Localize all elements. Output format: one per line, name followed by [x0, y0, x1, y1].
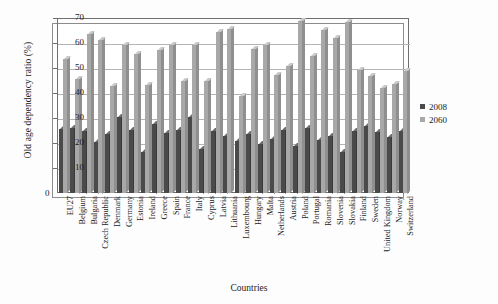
bar-face	[145, 85, 149, 193]
bar-face	[216, 32, 220, 194]
bar-face	[87, 34, 91, 193]
bar-face	[321, 30, 325, 193]
bar-2060	[134, 54, 138, 193]
bar-2060	[216, 32, 220, 194]
bar-2060	[380, 88, 384, 193]
bar-face	[63, 59, 67, 193]
x-tick-label: Italy	[195, 196, 204, 211]
bar-group	[198, 18, 210, 193]
bar-group	[127, 18, 139, 193]
bar-2060	[345, 22, 349, 193]
bar-2008	[399, 131, 403, 194]
bar-face	[122, 45, 126, 193]
bar-2008	[328, 136, 332, 194]
bar-2060	[98, 40, 102, 194]
legend-swatch-icon	[420, 117, 425, 122]
y-tick-label: 20	[44, 137, 84, 147]
bar-2008	[94, 142, 98, 194]
x-tick-label: Spain	[172, 196, 181, 215]
bar-face	[246, 134, 250, 193]
bar-2060	[286, 66, 290, 193]
bar-2008	[352, 131, 356, 193]
bar-2008	[141, 152, 145, 193]
bar-group	[374, 18, 386, 193]
bar-2008	[105, 134, 109, 193]
y-tick-mark	[53, 43, 57, 44]
bar-2060	[368, 76, 372, 193]
x-tick-label: France	[183, 196, 192, 219]
bar-face	[129, 130, 133, 193]
bar-2060	[298, 21, 302, 194]
bar-2008	[164, 133, 168, 193]
bar-2060	[87, 34, 91, 193]
x-tick-label: Ireland	[148, 196, 157, 220]
bar-2060	[63, 59, 67, 193]
bar-face	[375, 132, 379, 193]
bar-group	[174, 18, 186, 193]
y-tick-label: 30	[44, 112, 84, 122]
y-axis-title: Old age dependency ratio (%)	[23, 10, 33, 190]
bar-2008	[340, 152, 344, 194]
bar-2008	[223, 136, 227, 194]
bar-group	[92, 18, 104, 193]
bar-group	[186, 18, 198, 193]
bar-2008	[293, 146, 297, 194]
y-tick-label: 70	[44, 12, 84, 22]
bar-face	[235, 141, 239, 193]
bar-face	[328, 136, 332, 194]
bar-face	[380, 88, 384, 193]
bar-2008	[364, 126, 368, 193]
bar-group	[256, 18, 268, 193]
bar-face	[98, 40, 102, 194]
legend-item-2060: 2060	[420, 113, 447, 126]
bar-2008	[199, 149, 203, 194]
bar-2060	[333, 38, 337, 194]
bar-2008	[281, 130, 285, 194]
bar-2008	[129, 130, 133, 193]
bar-2008	[317, 140, 321, 193]
x-tick-label: Malta	[266, 196, 275, 215]
bar-2060	[227, 29, 231, 193]
x-tick-label: Greece	[160, 196, 169, 220]
bar-2008	[152, 124, 156, 194]
bar-face	[357, 70, 361, 193]
bar-2060	[169, 45, 173, 193]
y-tick-label: 50	[44, 62, 84, 72]
legend-label: 2008	[429, 102, 447, 112]
bar-2060	[181, 81, 185, 193]
y-tick-mark	[53, 168, 57, 169]
bar-face	[286, 66, 290, 193]
bar-2008	[188, 117, 192, 193]
x-tick-labels: EU27BelgiumBulgariaCzech RepublicDenmark…	[57, 196, 409, 282]
bar-face	[141, 152, 145, 193]
bar-face	[368, 76, 372, 193]
bar-top	[404, 68, 411, 71]
x-tick-label: Finland	[359, 196, 368, 221]
x-tick-label: Czech Republic	[101, 196, 110, 249]
bar-2060	[357, 70, 361, 193]
y-tick-mark	[53, 118, 57, 119]
bar-2060	[392, 84, 396, 193]
bar-group	[339, 18, 351, 193]
bar-group	[233, 18, 245, 193]
x-tick-label: Bulgaria	[90, 196, 99, 225]
bar-face	[352, 131, 356, 193]
legend-label: 2060	[429, 115, 447, 125]
bar-face	[192, 45, 196, 193]
x-tick-label: Germany	[125, 196, 134, 227]
bar-face	[345, 22, 349, 193]
bar-2060	[274, 75, 278, 193]
bar-2060	[122, 45, 126, 193]
x-tick-label: Norway	[395, 196, 404, 223]
bar-face	[251, 49, 255, 193]
bar-face	[239, 96, 243, 194]
x-axis-title: Countries	[0, 283, 498, 293]
bar-face	[270, 139, 274, 194]
x-tick-label: Lithuania	[230, 196, 239, 228]
bar-face	[176, 130, 180, 193]
bar-2060	[192, 45, 196, 193]
bar-2060	[310, 56, 314, 193]
bar-face	[298, 21, 302, 194]
legend-item-2008: 2008	[420, 100, 447, 113]
bar-face	[134, 54, 138, 193]
